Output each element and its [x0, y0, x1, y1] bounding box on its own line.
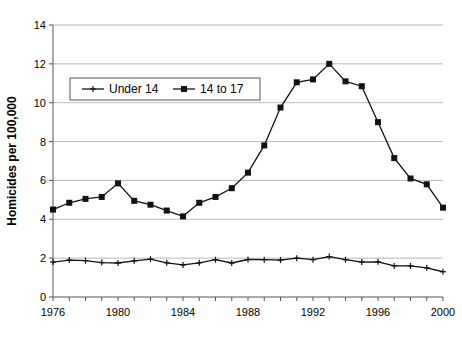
y-tick-label: 10 [34, 97, 46, 109]
y-tick-labels-group: 02468101214 [34, 19, 46, 303]
data-point-marker [66, 200, 72, 206]
legend-group: Under 1414 to 17 [70, 78, 260, 100]
y-tick-label: 8 [40, 136, 46, 148]
data-point-marker [83, 196, 89, 202]
y-tick-label: 14 [34, 19, 46, 31]
gridlines-group [53, 25, 443, 258]
data-point-marker [359, 83, 365, 89]
data-point-marker [180, 213, 186, 219]
y-tick-label: 2 [40, 252, 46, 264]
data-point-marker [148, 202, 154, 208]
data-point-marker [229, 185, 235, 191]
data-point-marker [213, 194, 219, 200]
y-tick-label: 6 [40, 174, 46, 186]
x-tick-label: 2000 [431, 306, 455, 318]
data-point-marker [326, 61, 332, 67]
data-point-marker [440, 205, 446, 211]
data-point-marker [261, 142, 267, 148]
legend-label: 14 to 17 [200, 82, 244, 96]
x-tick-label: 1996 [366, 306, 390, 318]
legend-label: Under 14 [109, 82, 159, 96]
chart-container: 02468101214 1976198019841988199219962000… [0, 0, 462, 339]
data-point-marker [115, 180, 121, 186]
line-chart: 02468101214 1976198019841988199219962000… [0, 0, 462, 339]
y-tick-label: 4 [40, 213, 46, 225]
y-axis-title: Homicides per 100,000 [5, 96, 19, 226]
y-tick-label: 0 [40, 291, 46, 303]
data-point-marker [278, 105, 284, 111]
legend-marker-square [181, 86, 187, 92]
x-tick-label: 1980 [106, 306, 130, 318]
data-point-marker [424, 181, 430, 187]
data-point-marker [50, 207, 56, 213]
series-under-14 [50, 254, 446, 275]
data-point-marker [245, 170, 251, 176]
data-point-marker [343, 78, 349, 84]
data-point-marker [391, 155, 397, 161]
x-tick-label: 1992 [301, 306, 325, 318]
x-tick-label: 1984 [171, 306, 195, 318]
y-axis-title-group: Homicides per 100,000 [5, 96, 19, 226]
data-point-marker [196, 200, 202, 206]
y-tick-label: 12 [34, 58, 46, 70]
x-tick-label: 1988 [236, 306, 260, 318]
data-point-marker [99, 194, 105, 200]
x-tick-labels-group: 1976198019841988199219962000 [41, 306, 455, 318]
data-point-marker [131, 198, 137, 204]
data-point-marker [408, 175, 414, 181]
x-tick-label: 1976 [41, 306, 65, 318]
data-point-marker [310, 76, 316, 82]
data-point-marker [375, 119, 381, 125]
data-point-marker [294, 79, 300, 85]
data-point-marker [164, 208, 170, 214]
